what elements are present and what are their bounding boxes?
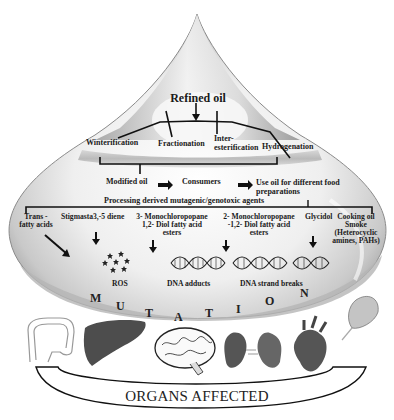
effect-dna-adducts: DNA adducts <box>167 280 210 288</box>
agent-2-mcpd-esters: 2- Monochloropopane -1,2- Diol fatty aci… <box>220 213 298 237</box>
process-fractionation: Fractionation <box>158 140 205 148</box>
mutation-letter-t1: T <box>145 306 153 321</box>
mutation-letter-i: I <box>236 302 241 317</box>
process-winterification: Winterification <box>86 139 138 147</box>
mutation-letter-n: N <box>300 286 309 301</box>
organs-affected-label: ORGANS AFFECTED <box>0 388 394 405</box>
oil-drop-background <box>0 0 394 420</box>
liver-icon <box>84 320 146 366</box>
flow-consumers: Consumers <box>182 178 221 186</box>
effect-dna-strand-breaks: DNA strand breaks <box>240 280 303 288</box>
agents-heading: Processing derived mutagenic/genotoxic a… <box>104 197 264 205</box>
brain-icon <box>155 328 215 375</box>
mutation-letter-a: A <box>174 310 183 325</box>
heart-icon <box>294 316 327 371</box>
process-hydrogenation: Hydrogenation <box>262 143 313 151</box>
stomach-icon <box>342 296 378 340</box>
agent-stigmastadiene: Stigmasta3,-5 diene <box>61 213 124 221</box>
flow-modified-oil: Modified oil <box>106 178 148 186</box>
mutation-letter-t2: T <box>205 306 213 321</box>
kidney-icon <box>224 333 281 368</box>
refined-oil-label: Refined oil <box>158 92 238 105</box>
process-interesterification: Inter- esterification <box>214 134 258 152</box>
colon-icon <box>28 318 74 362</box>
agent-glycidol: Glycidol <box>305 213 332 221</box>
mutation-letter-u: U <box>116 299 125 314</box>
mutation-letter-m: M <box>90 291 101 306</box>
effect-ros: ROS <box>112 280 128 288</box>
agent-trans-fatty-acids: Trans - fatty acids <box>16 213 56 229</box>
mutation-letter-o: O <box>265 294 274 309</box>
interesterification-text: Inter- esterification <box>214 134 258 152</box>
agent-3-mcpd-esters: 3- Monochloropopane 1,2- Diol fatty acid… <box>136 213 208 237</box>
agent-cooking-oil-smoke: Cooking oil Smoke (Heterocyclic amines, … <box>330 213 382 245</box>
flow-use-oil: Use oil for different food preparations <box>256 178 348 196</box>
